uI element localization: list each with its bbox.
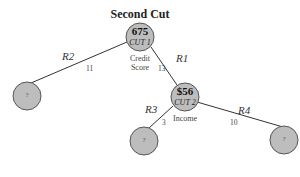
root-node-value: 675 [125,25,155,37]
edge-r3-region: R3 [145,103,157,115]
edge-r1-region: R1 [176,52,188,64]
edge-r4-region: R4 [238,104,250,116]
leaf-node-2-label: ? [130,136,158,144]
edge-r3-count: 3 [162,118,166,127]
income-node-value: $56 [170,85,200,97]
edge-r2-count: 11 [86,64,93,73]
leaf-node-3-label: ? [270,135,298,143]
leaf-node-1-label: ? [13,91,41,99]
income-node-cut: CUT 2 [170,98,200,107]
edge-r2-region: R2 [62,50,74,62]
root-node-cut: CUT 1 [125,38,155,47]
root-node-label-line2: Score [120,63,160,72]
edge-r4-count: 10 [230,118,238,127]
diagram-title: Second Cut [0,7,280,22]
income-node-label: Income [165,114,205,123]
root-node-label-line1: Credit [120,54,160,63]
edge-r1-count: 13 [158,64,166,73]
edge-r2 [31,42,127,83]
